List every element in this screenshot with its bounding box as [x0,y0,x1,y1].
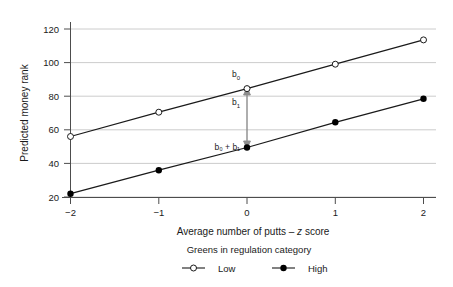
x-axis-title-tail: score [302,226,330,237]
y-tick-label-20: 20 [48,192,59,203]
y-axis-title: Predicted money rank [19,63,30,161]
x-tick-label-2: 2 [421,207,426,218]
data-point-low-x-2 [421,37,427,43]
data-point-high-x-2 [420,96,426,102]
x-tick-label--2: −2 [65,207,76,218]
x-axis-title-main: Average number of putts – [177,226,297,237]
y-tick-label-80: 80 [48,91,59,102]
data-point-low-x--1 [156,109,162,115]
x-tick-label-1: 1 [333,207,338,218]
y-tick-label-120: 120 [43,24,59,35]
data-point-high-x--1 [156,167,162,173]
legend-open-circle-icon [191,265,197,271]
y-tick-label-40: 40 [48,158,59,169]
data-point-low-x-0 [244,86,250,92]
legend-filled-circle-icon [280,265,286,271]
data-point-low-x--2 [68,134,74,140]
x-axis-title: Average number of putts – z score [177,226,330,237]
legend-label-low: Low [218,263,236,274]
legend-title: Greens in regulation category [187,244,312,255]
y-tick-label-60: 60 [48,124,59,135]
data-point-low-x-1 [332,61,338,67]
x-tick-label--1: −1 [153,207,164,218]
legend-label-high: High [308,263,328,274]
y-tick-label-100: 100 [43,57,59,68]
predicted-money-rank-chart: 120 100 80 60 40 20 −2 −1 0 1 2 Predicte… [0,0,453,287]
data-point-high-x-1 [332,119,338,125]
annotation-b0-plus-b1: b₀ + b₁ [214,142,240,152]
data-point-high-x--2 [67,191,73,197]
chart-container: 120 100 80 60 40 20 −2 −1 0 1 2 Predicte… [0,0,453,287]
data-point-high-x-0 [244,144,250,150]
x-tick-label-0: 0 [244,207,249,218]
